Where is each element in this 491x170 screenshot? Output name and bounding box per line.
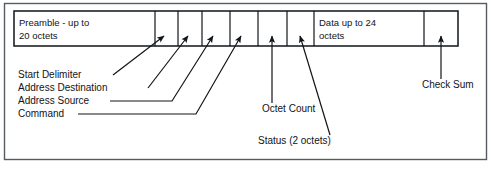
callout-label-address-source: Address Source bbox=[18, 95, 90, 106]
callout-label-octet-count: Octet Count bbox=[262, 103, 316, 114]
field-label-data-line2: octets bbox=[319, 30, 345, 41]
field-label-preamble-line2: 20 octets bbox=[19, 30, 58, 41]
callout-label-status: Status (2 octets) bbox=[258, 135, 331, 146]
callout-label-check-sum: Check Sum bbox=[422, 79, 474, 90]
callout-label-address-destination: Address Destination bbox=[18, 82, 108, 93]
frame-format-diagram: Preamble - up to 20 octets Data up to 24… bbox=[0, 0, 491, 170]
field-label-preamble-line1: Preamble - up to bbox=[19, 17, 89, 28]
field-label-data-line1: Data up to 24 bbox=[319, 17, 376, 28]
callout-label-start-delimiter: Start Delimiter bbox=[18, 69, 82, 80]
diagram-canvas: Preamble - up to 20 octets Data up to 24… bbox=[0, 0, 491, 170]
callout-label-command: Command bbox=[18, 108, 64, 119]
